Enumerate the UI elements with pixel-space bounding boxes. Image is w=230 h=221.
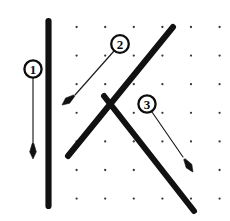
grid-dot	[218, 54, 220, 56]
grid-dot	[161, 83, 163, 85]
grid-dot	[104, 169, 106, 171]
callout-2-number: 2	[117, 37, 124, 52]
grid-dot	[104, 26, 106, 28]
grid-dot	[75, 169, 77, 171]
grid-dot	[190, 54, 192, 56]
grid-dot	[75, 112, 77, 114]
figure-canvas: 123	[0, 0, 230, 221]
callout-1-number: 1	[30, 62, 37, 77]
grid-dot	[218, 83, 220, 85]
grid-dot	[218, 169, 220, 171]
grid-dot	[133, 112, 135, 114]
grid-dot	[75, 54, 77, 56]
grid-dot	[218, 197, 220, 199]
grid-dot	[75, 83, 77, 85]
grid-dot	[190, 140, 192, 142]
grid-dot	[161, 112, 163, 114]
grid-dot	[104, 140, 106, 142]
grid-dot	[133, 54, 135, 56]
grid-dot	[133, 83, 135, 85]
grid-dot	[161, 197, 163, 199]
grid-dot	[133, 26, 135, 28]
grid-dot	[75, 197, 77, 199]
grid-dot	[161, 54, 163, 56]
grid-dot	[161, 140, 163, 142]
grid-dot	[133, 169, 135, 171]
grid-dot	[133, 140, 135, 142]
grid-dot	[218, 26, 220, 28]
grid-dot	[161, 26, 163, 28]
grid-dot	[104, 83, 106, 85]
grid-dot	[133, 197, 135, 199]
grid-dot	[218, 140, 220, 142]
grid-dot	[190, 112, 192, 114]
line-figure-svg: 123	[0, 0, 230, 221]
callout-3-number: 3	[144, 97, 151, 112]
grid-dot	[104, 54, 106, 56]
grid-dot	[190, 26, 192, 28]
grid-dot	[218, 112, 220, 114]
grid-dot	[75, 26, 77, 28]
grid-dot	[104, 197, 106, 199]
grid-dot	[190, 197, 192, 199]
grid-dot	[190, 83, 192, 85]
